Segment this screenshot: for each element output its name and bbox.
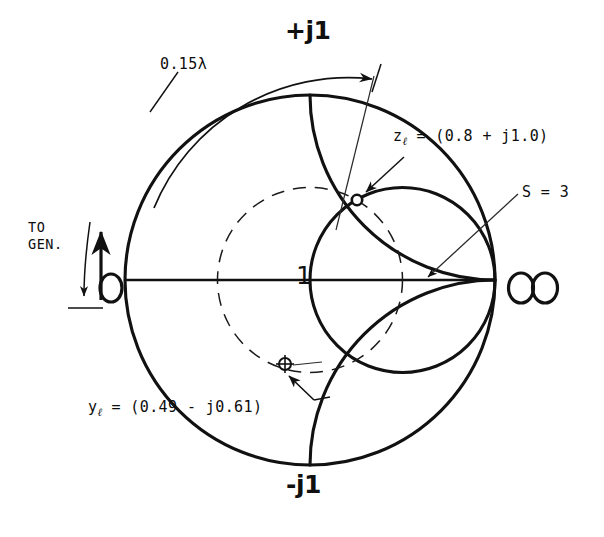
y-load-subscript: ℓ: [97, 406, 102, 419]
swr-leader: [428, 194, 518, 277]
z-load-label: zℓ = (0.8 + j1.0): [393, 127, 549, 148]
to-generator-line2: GEN.: [28, 236, 63, 253]
to-generator-label: TO GEN.: [28, 219, 63, 253]
y-load-value: = (0.49 - j0.61): [111, 398, 262, 416]
origin-zero-marker: [100, 274, 122, 302]
wavelength-leader: [150, 72, 178, 112]
infinity-marker-right: [533, 273, 558, 303]
top-reactance-label: +j1: [285, 16, 330, 45]
y-load-label: yℓ = (0.49 - j0.61): [88, 398, 262, 419]
bottom-reactance-label: -j1: [286, 470, 321, 499]
z-load-value: = (0.8 + j1.0): [416, 127, 548, 145]
to-generator-line1: TO: [28, 219, 63, 236]
wavelength-label: 0.15λ: [160, 55, 207, 73]
z-load-point-marker: [352, 195, 362, 205]
z-load-subscript: ℓ: [402, 135, 407, 148]
swr-label: S = 3: [522, 183, 569, 201]
smith-chart-figure: 0.15λ TO GEN. +j1 -j1 1 zℓ = (0.8 + j1.0…: [0, 0, 604, 537]
to-gen-arrow-down: [84, 222, 90, 296]
center-one-label: 1: [296, 261, 312, 290]
y-load-leader: [289, 376, 314, 400]
infinity-marker-left: [509, 273, 534, 303]
y-load-marker-tail: [293, 362, 322, 365]
